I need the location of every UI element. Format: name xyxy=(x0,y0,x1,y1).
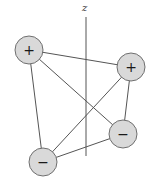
charge-lower-right: − xyxy=(109,120,137,148)
charge-right: + xyxy=(117,53,145,81)
tetrahedral-charge-diagram: z ++−− xyxy=(0,0,152,191)
charge-top-left: + xyxy=(15,36,43,64)
edge-top-left-to-lower-right xyxy=(29,50,123,134)
edge-top-left-to-lower-left xyxy=(29,50,43,162)
diagram-canvas: z ++−− xyxy=(0,0,152,191)
edge-right-to-lower-left xyxy=(43,67,131,162)
plus-sign-icon: + xyxy=(125,59,137,75)
charge-spheres: ++−− xyxy=(15,36,145,176)
minus-sign-icon: − xyxy=(37,154,49,170)
minus-sign-icon: − xyxy=(117,126,129,142)
charge-lower-left: − xyxy=(29,148,57,176)
edge-top-left-to-right xyxy=(29,50,131,67)
z-axis-label: z xyxy=(81,2,88,13)
plus-sign-icon: + xyxy=(23,42,35,58)
